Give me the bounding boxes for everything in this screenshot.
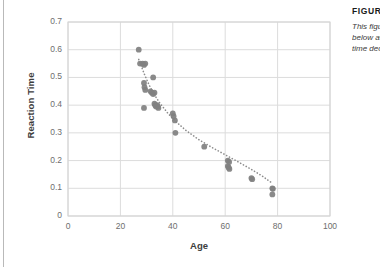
- figure-caption-column: FIGURE 1 This figure shows howbelow aver…: [352, 6, 380, 54]
- figure-caption-line: below average reaction: [352, 32, 380, 43]
- figure-caption-line: time declines with age.: [352, 43, 380, 54]
- y-tick-label: 0.5: [36, 71, 62, 81]
- figure-block: 00.10.20.30.40.50.60.7 020406080100 Reac…: [8, 4, 344, 262]
- y-tick-label: 0.7: [36, 16, 62, 26]
- x-tick-label: 40: [158, 221, 188, 231]
- y-tick-label: 0.4: [36, 99, 62, 109]
- x-tick-label: 80: [263, 221, 293, 231]
- x-tick-label: 0: [53, 221, 83, 231]
- plot-background: [68, 22, 330, 216]
- x-tick-label: 100: [315, 221, 345, 231]
- page-left-rule: [3, 0, 4, 267]
- y-tick-label: 0.6: [36, 44, 62, 54]
- scatter-chart: 00.10.20.30.40.50.60.7 020406080100 Reac…: [8, 4, 344, 262]
- y-tick-label: 0.2: [36, 155, 62, 165]
- figure-caption-line: This figure shows how: [352, 21, 380, 32]
- x-tick-label: 60: [210, 221, 240, 231]
- page-canvas: 00.10.20.30.40.50.60.7 020406080100 Reac…: [0, 0, 380, 267]
- x-tick-label: 20: [105, 221, 135, 231]
- figure-caption-body: This figure shows howbelow average react…: [352, 21, 380, 54]
- y-axis-title: Reaction Time: [25, 46, 36, 166]
- x-axis-title: Age: [68, 240, 330, 251]
- y-tick-label: 0.3: [36, 127, 62, 137]
- y-tick-label: 0: [36, 210, 62, 220]
- y-tick-label: 0.1: [36, 182, 62, 192]
- figure-caption-title: FIGURE 1: [352, 6, 380, 16]
